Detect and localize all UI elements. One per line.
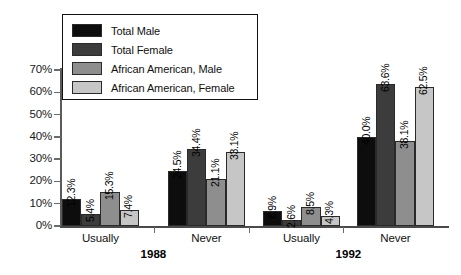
y-axis-tick [54,158,61,159]
bar-value-label: 2.6% [285,205,297,228]
y-axis-tick-label-text: 30% [10,152,52,164]
y-axis-tick-label: 20% [6,174,52,188]
bar-value-label: 12.3% [65,178,77,206]
legend-swatch [72,81,102,94]
bar-value-label: 4.3% [323,202,335,225]
legend-swatch [72,24,102,37]
legend-item: Total Female [72,42,173,57]
x-axis-year-label: 1988 [108,248,198,260]
bar-value-label: 21.1% [209,159,221,187]
x-axis-category-label: Never [161,232,251,244]
y-axis-tick-label-text: 40% [10,130,52,142]
y-axis-tick-label: 30% [6,152,52,166]
bar-value-label: 5.4% [84,199,96,222]
y-axis-tick-label-text: 70% [10,63,52,75]
y-axis-tick-label-text: 50% [10,108,52,120]
y-axis-tick-label: 70% [6,63,52,77]
bar-value-label: 15.3% [103,172,115,200]
bar-value-label: 7.4% [122,195,134,218]
x-axis-separator-tick [154,227,155,233]
y-axis-tick-label-text: 10% [10,197,52,209]
y-axis-tick [54,69,61,70]
bar-value-label: 33.1% [228,132,240,160]
bar [376,84,395,226]
bar-value-label: 24.5% [171,151,183,179]
bar-value-label: 6.9% [266,196,278,219]
y-axis-tick-label: 0% [6,219,52,233]
legend-label: African American, Female [111,82,235,94]
y-axis-tick [54,136,61,137]
x-axis-separator-tick [249,227,250,233]
legend-swatch [72,62,102,75]
y-axis-tick-label: 50% [6,108,52,122]
legend-swatch [72,43,102,56]
y-axis-tick-label: 10% [6,197,52,211]
legend-item: Total Male [72,23,160,38]
y-axis-tick [54,114,61,115]
legend-label: African American, Male [111,63,222,75]
x-axis-category-label: Never [350,232,440,244]
x-axis-category-label: Usually [256,232,346,244]
y-axis-tick-label-text: 20% [10,174,52,186]
legend-label: Total Male [111,25,160,37]
plot-area: 70%60%50%40%30%20%10%0% UsuallyNeverUsua… [0,0,461,275]
bar [415,87,434,226]
chart-legend: Total MaleTotal FemaleAfrican American, … [62,14,258,100]
bar-value-label: 40.0% [360,117,372,145]
legend-item: African American, Male [72,61,222,76]
bar-value-label: 8.5% [304,192,316,215]
legend-label: Total Female [111,44,173,56]
y-axis-tick-label: 60% [6,85,52,99]
bar [357,137,376,226]
x-axis-year-label: 1992 [303,248,393,260]
x-axis-separator-tick [343,227,344,233]
bar [187,149,206,226]
bar [226,152,245,226]
bar-value-label: 38.1% [398,121,410,149]
y-axis-tick [54,92,61,93]
bar-value-label: 63.6% [379,64,391,92]
y-axis-tick [54,203,61,204]
legend-item: African American, Female [72,80,235,95]
bar-chart: 70%60%50%40%30%20%10%0% UsuallyNeverUsua… [0,0,461,275]
y-axis-tick-label-text: 60% [10,85,52,97]
bar [168,171,187,226]
x-axis-line [60,226,449,228]
bar-value-label: 62.5% [417,66,429,94]
y-axis-tick [54,181,61,182]
bar-value-label: 34.4% [190,129,202,157]
x-axis-category-label: Usually [55,232,145,244]
y-axis-tick-label: 40% [6,130,52,144]
y-axis-tick-label-text: 0% [10,219,52,231]
bar [395,141,414,226]
